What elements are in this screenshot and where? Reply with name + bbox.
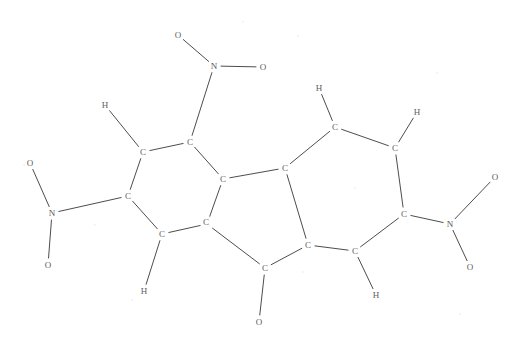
bond-c11-c12	[342, 129, 389, 145]
bond-c7-c11	[290, 131, 329, 163]
bond-c2-c3	[130, 159, 140, 190]
atom-label-o3: O	[26, 158, 35, 169]
atom-label-c7: C	[281, 163, 289, 174]
atom-label-c12: C	[391, 143, 399, 154]
bond-c5-c10	[213, 228, 260, 264]
bond-c6-c7	[230, 169, 278, 178]
atom-label-o5: O	[255, 317, 264, 328]
atom-label-o2: O	[259, 62, 268, 73]
bond-o1-n1	[183, 40, 208, 62]
atom-label-o7: O	[466, 262, 475, 273]
bond-c4-c5	[169, 226, 200, 233]
atom-label-c2: C	[139, 147, 147, 158]
bond-c12-h4	[399, 118, 414, 142]
atom-label-h5: H	[372, 290, 381, 301]
bond-c13-c14	[361, 218, 399, 247]
atom-label-c6: C	[219, 174, 227, 185]
atom-label-c9: C	[304, 240, 312, 251]
bond-c9-c10	[271, 248, 302, 264]
scan-speck-4	[355, 188, 356, 189]
bond-n3-o7	[453, 230, 467, 260]
atom-label-h3: H	[315, 83, 324, 94]
chemical-structure-diagram: ONOCHCCNOOCHCCCCCCOCHCHCNOOCH	[0, 0, 518, 345]
bond-c14-c9	[315, 246, 348, 250]
scan-speck-0	[243, 22, 244, 23]
atom-label-h4: H	[413, 107, 422, 118]
atom-label-c8: C	[202, 217, 210, 228]
bond-n2-o4	[49, 220, 52, 258]
scan-speck-2	[437, 73, 438, 74]
bond-c1-c2	[150, 143, 183, 150]
atom-label-o1: O	[174, 30, 183, 41]
bond-n2-o3	[33, 169, 49, 206]
atom-label-h2: H	[140, 286, 149, 297]
atom-label-c11: C	[331, 122, 339, 133]
bond-n3-o6	[455, 182, 490, 219]
scan-speck-8	[460, 314, 461, 315]
atom-label-c13: C	[400, 209, 408, 220]
bond-n1-o2	[221, 66, 256, 67]
bond-c14-h5	[358, 257, 373, 288]
bond-n1-c1	[192, 73, 212, 136]
scan-speck-7	[132, 300, 133, 301]
atom-label-n2: N	[48, 208, 57, 219]
atom-label-c3: C	[124, 191, 132, 202]
bond-c2-h1	[109, 110, 138, 146]
bond-c11-h3	[322, 94, 333, 120]
bond-c5-c6	[209, 186, 220, 218]
scan-speck-5	[95, 225, 96, 226]
atom-label-o4: O	[44, 260, 53, 271]
bond-c6-c1	[195, 147, 219, 174]
atom-label-n3: N	[446, 219, 455, 230]
bond-c12-c13	[396, 155, 403, 207]
bond-c10-o5	[260, 275, 264, 315]
bond-c3-c4	[133, 201, 158, 229]
atom-label-c14: C	[351, 246, 359, 257]
scan-speck-3	[24, 165, 25, 166]
scan-speck-6	[303, 272, 304, 273]
bond-c3-n2	[59, 198, 121, 212]
bond-layer	[0, 0, 518, 345]
scan-speck-1	[298, 36, 299, 37]
bond-c7-c9	[287, 175, 306, 239]
atom-label-n1: N	[210, 61, 219, 72]
atom-label-c10: C	[261, 263, 269, 274]
bond-c4-h2	[146, 241, 160, 285]
atom-label-c4: C	[158, 229, 166, 240]
atom-label-c1: C	[186, 137, 194, 148]
atom-label-o6: O	[491, 172, 500, 183]
bond-c13-n3	[411, 215, 443, 222]
atom-label-h1: H	[101, 100, 110, 111]
